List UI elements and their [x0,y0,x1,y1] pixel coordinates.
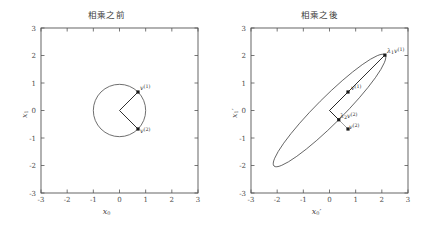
y-axis-label-sub: 1 [233,110,239,113]
y-ticks-right [405,28,409,193]
plot-svg-after: -3 -2 -1 0 1 2 3 3 2 1 0 -1 -2 -3 [213,0,426,235]
x-axis-label: x0′ [210,207,423,216]
x-tick-label: 2 [170,196,174,204]
x-tick-label: 3 [406,196,410,204]
y-tick-label: 2 [242,52,246,60]
y-axis-label: x1′ [230,109,239,119]
annotation-v1: v(1) [140,85,150,91]
x-tick-label: 1 [353,196,357,204]
annotation-v2: v(2) [349,124,359,130]
plot-panel-after: 相乘之後 [213,0,426,235]
x-ticks [41,190,198,194]
y-tick-label: -2 [29,162,36,170]
vector-v2-line [120,111,139,130]
y-tick-label: -2 [239,162,246,170]
x-axis-label-sub: 0 [107,210,110,216]
x-ticks [251,190,408,194]
annotation-v1-sup: (1) [144,84,151,89]
y-tick-label: 2 [32,52,36,60]
y-axis-label-base: x [230,113,239,118]
annotation-lambda1-sup: (1) [398,47,405,52]
x-tick-label: 1 [143,196,147,204]
x-tick-label: -1 [90,196,97,204]
annotation-lambda1-v1: λ1v(1) [387,48,404,56]
plot-svg-before: -3 -2 -1 0 1 2 3 3 2 1 0 -1 -2 -3 [0,0,213,235]
annotation-lambda2-v2: λ2v(2) [340,113,357,121]
annotation-v2-sup: (2) [353,123,360,128]
annotation-v2-sup: (2) [144,127,151,132]
y-ticks-right [195,28,199,193]
annotation-v1: v(1) [351,85,361,91]
x-axis-label: x0 [0,207,213,216]
x-tick-label: 0 [327,196,331,204]
y-tick-label: 1 [242,80,246,88]
vector-v1-line [120,92,139,111]
x-tick-label: 3 [196,196,200,204]
plot-panel-before: 相乘之前 [0,0,213,235]
x-tick-label: -2 [64,196,71,204]
y-tick-label: -1 [239,135,246,143]
vector-v1-line [330,92,349,111]
x-axis-label-prime: ′ [319,207,321,216]
y-axis-label: x1 [20,110,29,118]
x-tick-label: -1 [300,196,307,204]
y-tick-label: -3 [29,190,36,198]
y-axis-label-base: x [20,113,29,118]
x-tick-label: 0 [117,196,121,204]
y-axis-label-sub: 1 [23,110,29,113]
x-tick-label: -3 [248,196,255,204]
y-tick-label: 3 [32,25,36,33]
y-tick-label: -1 [29,135,36,143]
x-tick-label: -3 [38,196,45,204]
y-ticks [251,28,255,193]
y-tick-label: -3 [239,190,246,198]
y-ticks [41,28,45,193]
annotation-v1-sup: (1) [355,84,362,89]
y-axis-label-prime: ′ [230,109,239,111]
y-tick-label: 0 [242,107,246,115]
x-ticks-top [41,28,198,32]
x-tick-label: 2 [380,196,384,204]
annotation-v2: v(2) [140,128,150,134]
y-tick-label: 3 [242,25,246,33]
x-ticks-top [251,28,408,32]
y-tick-label: 0 [32,107,36,115]
y-tick-label: 1 [32,80,36,88]
figure-canvas: 相乘之前 [0,0,426,235]
annotation-lambda2-sup: (2) [351,112,358,117]
x-tick-label: -2 [274,196,281,204]
